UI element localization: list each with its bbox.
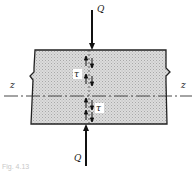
- figure-caption: Fig. 4.13: [2, 163, 29, 170]
- beam-diagram: [0, 0, 196, 174]
- force-label-bottom: Q: [74, 154, 81, 163]
- force-label-top: Q: [97, 5, 104, 14]
- axis-label-left: z: [10, 81, 15, 90]
- shear-label-upper: τ: [74, 70, 79, 79]
- force-arrow-bottom: [83, 124, 89, 166]
- axis-label-right: z: [181, 81, 186, 90]
- shear-label-lower: τ: [96, 104, 101, 113]
- force-arrow-top: [89, 10, 95, 50]
